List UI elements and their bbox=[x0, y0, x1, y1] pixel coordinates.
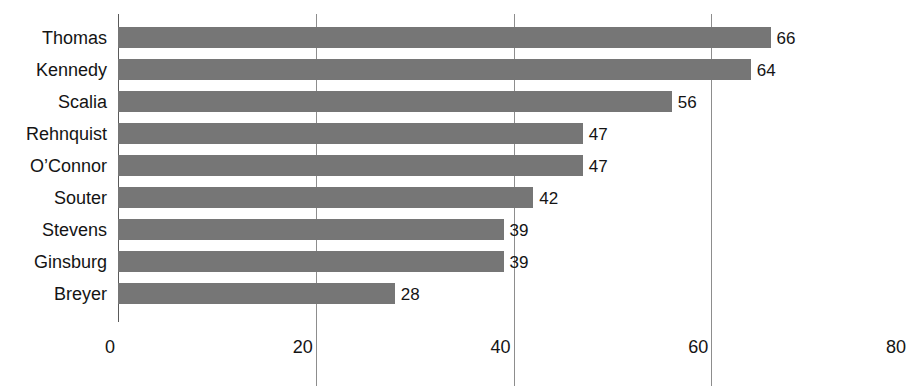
bar-row[interactable]: 39 bbox=[118, 219, 504, 240]
bar-value-label: 47 bbox=[583, 125, 608, 142]
category-label: Kennedy bbox=[0, 61, 107, 79]
bar-chart: ThomasKennedyScaliaRehnquistO’ConnorSout… bbox=[0, 0, 909, 386]
x-tick-label-20: 20 bbox=[253, 338, 313, 356]
x-tick-label-40: 40 bbox=[451, 338, 511, 356]
category-label: Thomas bbox=[0, 29, 107, 47]
category-label: Scalia bbox=[0, 93, 107, 111]
bar-row[interactable]: 56 bbox=[118, 91, 672, 112]
bar[interactable] bbox=[118, 219, 504, 240]
bar-row[interactable]: 64 bbox=[118, 59, 751, 80]
bar[interactable] bbox=[118, 123, 583, 144]
bar-value-label: 64 bbox=[751, 61, 776, 78]
bar[interactable] bbox=[118, 91, 672, 112]
bar-row[interactable]: 47 bbox=[118, 155, 583, 176]
bar[interactable] bbox=[118, 155, 583, 176]
bar-row[interactable]: 39 bbox=[118, 251, 504, 272]
bar[interactable] bbox=[118, 27, 771, 48]
bar[interactable] bbox=[118, 187, 533, 208]
bar-row[interactable]: 66 bbox=[118, 27, 771, 48]
bar-value-label: 28 bbox=[395, 285, 420, 302]
category-label: Rehnquist bbox=[0, 125, 107, 143]
bar-value-label: 66 bbox=[771, 29, 796, 46]
bar-row[interactable]: 28 bbox=[118, 283, 395, 304]
category-label: Ginsburg bbox=[0, 253, 107, 271]
category-label: O’Connor bbox=[0, 157, 107, 175]
bar-value-label: 39 bbox=[504, 221, 529, 238]
bar[interactable] bbox=[118, 59, 751, 80]
bar-row[interactable]: 47 bbox=[118, 123, 583, 144]
bar[interactable] bbox=[118, 283, 395, 304]
category-label: Souter bbox=[0, 189, 107, 207]
bar-value-label: 39 bbox=[504, 253, 529, 270]
x-tick-label-0: 0 bbox=[55, 338, 115, 356]
bar-row[interactable]: 42 bbox=[118, 187, 533, 208]
category-label: Stevens bbox=[0, 221, 107, 239]
bar-value-label: 47 bbox=[583, 157, 608, 174]
bar-value-label: 42 bbox=[533, 189, 558, 206]
category-label: Breyer bbox=[0, 285, 107, 303]
bar-value-label: 56 bbox=[672, 93, 697, 110]
x-tick-label-80: 80 bbox=[846, 338, 906, 356]
x-tick-label-60: 60 bbox=[648, 338, 708, 356]
bar[interactable] bbox=[118, 251, 504, 272]
